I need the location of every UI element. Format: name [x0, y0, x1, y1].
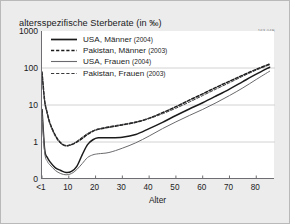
x-tick-label: 40	[144, 183, 153, 192]
legend-item-label: Pakistan, Frauen (2003)	[83, 69, 166, 78]
chart-legend: USA, Männer (2004)Pakistan, Männer (2003…	[51, 34, 167, 78]
x-tick-label: 70	[224, 183, 233, 192]
legend-item-label: Pakistan, Männer (2003)	[83, 46, 167, 55]
x-axis-ticks: <11020304050607080	[41, 183, 274, 195]
legend-line-icon	[51, 46, 77, 55]
x-tick-label: 30	[117, 183, 126, 192]
x-tick-label: 60	[197, 183, 206, 192]
x-tick-label: 50	[170, 183, 179, 192]
chart-title: altersspezifische Sterberate (in ‰)	[19, 18, 162, 28]
x-axis-label: Alter	[41, 195, 274, 205]
x-tick-marks	[42, 176, 256, 180]
legend-item-label: USA, Frauen (2004)	[83, 57, 151, 66]
x-tick-label: 10	[63, 183, 72, 192]
x-tick-label: 20	[90, 183, 99, 192]
legend-item: USA, Frauen (2004)	[51, 57, 167, 67]
y-tick-label: 100	[24, 63, 38, 73]
legend-line-icon	[51, 69, 77, 78]
chart-figure: altersspezifische Sterberate (in ‰) 163 …	[0, 0, 290, 224]
x-tick-label: <1	[36, 183, 45, 192]
series-line-0	[42, 67, 270, 172]
legend-item: Pakistan, Männer (2003)	[51, 45, 167, 55]
legend-item: Pakistan, Frauen (2003)	[51, 68, 167, 78]
legend-item: USA, Männer (2004)	[51, 34, 167, 44]
legend-item-label: USA, Männer (2004)	[83, 35, 153, 44]
legend-line-icon	[51, 35, 77, 44]
series-line-2	[42, 71, 270, 175]
y-tick-label: 1000	[19, 26, 38, 36]
legend-line-icon	[51, 57, 77, 66]
x-tick-label: 80	[251, 183, 260, 192]
y-tick-label: 1	[33, 137, 38, 147]
y-axis-ticks: 10001001010	[1, 31, 38, 179]
y-tick-label: 10	[28, 100, 38, 110]
